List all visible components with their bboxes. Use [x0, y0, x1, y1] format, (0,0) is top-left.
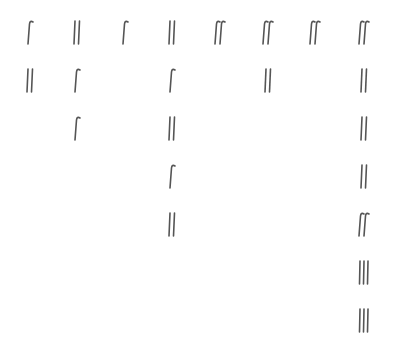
hook-icon	[18, 17, 42, 47]
double-hook-icon	[256, 17, 280, 47]
double-hook-icon	[352, 209, 376, 239]
triple-bar-icon	[352, 257, 376, 287]
hook-icon	[65, 113, 89, 143]
double-bar-icon	[160, 17, 184, 47]
double-bar-icon	[65, 17, 89, 47]
double-bar-icon	[160, 209, 184, 239]
double-hook-icon	[208, 17, 232, 47]
double-hook-icon	[303, 17, 327, 47]
hook-icon	[65, 65, 89, 95]
double-bar-icon	[18, 65, 42, 95]
double-bar-icon	[160, 113, 184, 143]
double-bar-icon	[352, 65, 376, 95]
double-bar-icon	[352, 161, 376, 191]
hook-icon	[160, 161, 184, 191]
double-hook-icon	[352, 17, 376, 47]
double-bar-icon	[352, 113, 376, 143]
hook-icon	[113, 17, 137, 47]
triple-bar-icon	[352, 305, 376, 335]
hook-icon	[160, 65, 184, 95]
double-bar-icon	[256, 65, 280, 95]
